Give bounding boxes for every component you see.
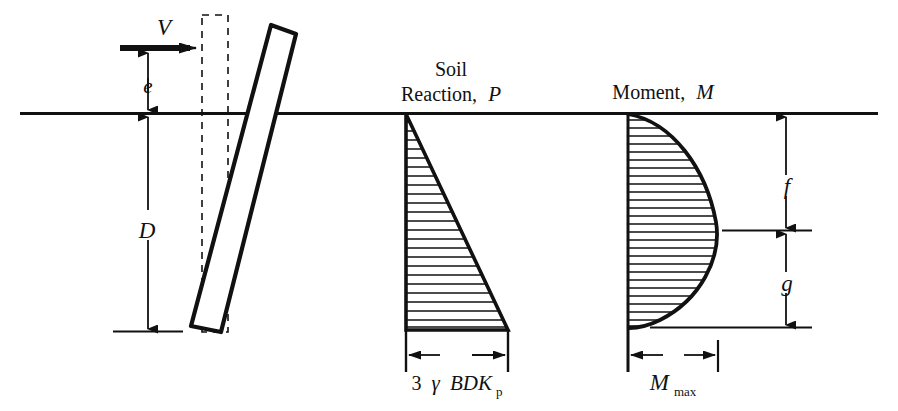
lateral-load-label: V — [157, 15, 174, 40]
eccentricity-label: e — [143, 74, 152, 98]
depth-g-label: g — [781, 271, 793, 296]
soil-pressure-terms: BDK — [450, 371, 493, 395]
soil-unit-weight-gamma-symbol: γ — [432, 371, 441, 395]
soil-reaction-triangle — [406, 114, 508, 330]
soil-reaction-title-word: Reaction, — [401, 83, 477, 105]
max-moment-symbol: M — [649, 370, 671, 395]
moment-symbol: M — [695, 80, 715, 104]
engineering-figure: V e D Soil Reaction, P Moment, M 3 γ BDK… — [0, 0, 898, 411]
soil-reaction-title-line2: Reaction, P — [401, 82, 501, 106]
depth-f-label: f — [784, 174, 794, 199]
soil-pressure-coefficient: 3 — [412, 372, 422, 394]
soil-reaction-diagram-group — [400, 114, 515, 372]
pile-sketch-group — [191, 15, 296, 332]
max-moment-subscript: max — [674, 384, 697, 399]
figure-svg: V e D Soil Reaction, P Moment, M 3 γ BDK… — [0, 0, 898, 411]
soil-reaction-symbol: P — [487, 82, 501, 106]
max-moment-label: M max — [649, 370, 697, 399]
embedment-depth-label: D — [138, 218, 156, 243]
passive-pressure-subscript: p — [496, 384, 503, 399]
moment-title: Moment, M — [612, 80, 715, 104]
moment-hatching — [622, 120, 730, 326]
soil-pressure-value-label: 3 γ BDK p — [412, 371, 503, 399]
moment-title-word: Moment, — [612, 81, 685, 103]
deflected-pile-body — [191, 25, 296, 332]
soil-reaction-title-line1: Soil — [435, 58, 468, 80]
moment-diagram-group — [622, 113, 730, 372]
